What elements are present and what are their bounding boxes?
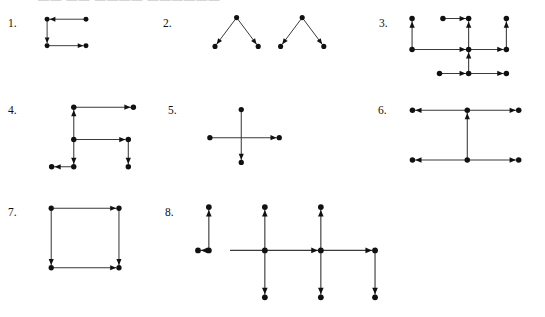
figure-canvas-1 <box>30 8 100 53</box>
edge-mid-right-arrowhead <box>460 47 466 52</box>
n-iso-top-dot <box>206 204 212 210</box>
problem-number-3: 3. <box>379 18 388 30</box>
n-c-dot <box>71 137 76 142</box>
n-top-right-dot <box>516 108 521 113</box>
edge-iso-up-arrowhead <box>206 210 212 217</box>
problem-number-5: 5. <box>168 105 177 117</box>
n-right-mid-dot <box>504 47 509 52</box>
edge-bottom-arrowhead <box>110 265 116 270</box>
nodes <box>410 108 522 163</box>
edge-top-arrowhead <box>50 17 56 22</box>
edge-bottom-left-arrowhead <box>415 157 421 162</box>
n-h2-bottom-dot <box>318 294 324 300</box>
edges <box>210 110 277 160</box>
nodes <box>45 17 89 48</box>
figure-1 <box>30 8 100 53</box>
n-top-right-dot <box>84 17 89 22</box>
edge-top-arrowhead <box>110 206 116 211</box>
n-peak-b-dot <box>300 15 305 20</box>
nodes <box>409 16 509 76</box>
n-h3-bottom-dot <box>372 294 378 300</box>
edge-bottom-left-arrowhead <box>55 164 61 169</box>
n-right-b-dot <box>321 44 326 49</box>
edge-a-right-arrowhead <box>251 38 256 44</box>
edge-down-right-arrowhead <box>126 158 131 164</box>
edges <box>409 16 509 76</box>
n-h3-dot <box>372 247 378 253</box>
problem-number-1: 1. <box>8 18 17 30</box>
figure-canvas-6 <box>398 100 528 172</box>
edge-main-2-arrowhead <box>365 248 372 254</box>
edge-top-right-arrowhead <box>124 105 130 110</box>
problem-number-6: 6. <box>378 105 387 117</box>
figure-6 <box>398 100 528 172</box>
edge-bottom-hub-right-arrowhead <box>497 71 503 76</box>
edge-down-left-arrowhead <box>71 158 76 164</box>
edge-a-left-arrowhead <box>217 38 222 44</box>
n-hub-top-dot <box>466 16 471 21</box>
n-bottom-left-dot <box>437 71 442 76</box>
n-top-left-dot <box>45 17 50 22</box>
n-bottom-left-dot <box>45 43 50 48</box>
edge-h2-down-arrowhead <box>318 288 324 295</box>
edges <box>217 18 323 45</box>
n-h1-dot <box>262 247 268 253</box>
n-iso-left-dot <box>195 247 201 253</box>
n-h2-dot <box>318 247 324 253</box>
n-tl-dot <box>409 16 414 21</box>
n-left-a-dot <box>212 44 217 49</box>
n-bottom-right-dot <box>84 43 89 48</box>
n-g-dot <box>49 164 54 169</box>
edge-h1-down-arrowhead <box>262 288 268 295</box>
edge-h2-up-arrowhead <box>318 210 324 217</box>
n-iso-bottom-dot <box>206 247 212 253</box>
problem-number-2: 2. <box>163 18 172 30</box>
n-h2-top-dot <box>318 204 324 210</box>
n-top-mid-dot <box>465 108 470 113</box>
n-right-a-dot <box>256 44 261 49</box>
figure-canvas-5 <box>195 100 290 172</box>
nodes <box>49 206 122 271</box>
n-tr-dot <box>504 16 509 21</box>
header-ghost-line: —— —— ———— —————— <box>38 0 221 5</box>
n-bottom-mid-dot <box>465 157 470 162</box>
n-tl-dot <box>49 206 54 211</box>
edge-vertical-up-arrowhead <box>465 113 470 119</box>
n-f-dot <box>126 164 131 169</box>
n-h1-top-dot <box>262 204 268 210</box>
edge-up-arrowhead <box>71 110 76 116</box>
edge-horizontal-arrowhead <box>271 135 277 140</box>
edge-left-arrowhead <box>49 259 54 265</box>
edge-top-right-arrowhead <box>510 108 516 113</box>
edge-bottom-left-right-arrowhead <box>460 71 466 76</box>
edge-h1-up-arrowhead <box>262 210 268 217</box>
nodes <box>49 104 136 169</box>
edge-right-up-arrowhead <box>504 21 509 27</box>
edge-top-left-arrowhead <box>415 108 421 113</box>
edges <box>49 206 122 271</box>
edge-b-right-arrowhead <box>317 38 322 44</box>
edge-main-1-arrowhead <box>311 248 318 254</box>
n-h1-bottom-dot <box>262 294 268 300</box>
n-top-mid-left-dot <box>440 16 445 21</box>
figure-5 <box>195 100 290 172</box>
n-bottom-hub-dot <box>466 71 471 76</box>
n-hub-dot <box>466 47 471 52</box>
figure-canvas-2 <box>192 8 342 56</box>
nodes <box>195 204 378 300</box>
edge-bottom-arrowhead <box>78 43 84 48</box>
n-bl-dot <box>49 265 54 270</box>
problem-number-7: 7. <box>8 207 17 219</box>
n-peak-a-dot <box>234 15 239 20</box>
problem-number-4: 4. <box>8 105 17 117</box>
figure-8 <box>190 198 430 310</box>
figure-canvas-3 <box>398 10 523 82</box>
n-top-dot <box>239 107 244 112</box>
edge-h3-down-arrowhead <box>372 288 378 295</box>
n-d-dot <box>126 137 131 142</box>
edge-mid-right-arrowhead <box>119 137 125 142</box>
figure-3 <box>398 10 523 82</box>
n-a-dot <box>71 104 76 109</box>
edge-hub-right-arrowhead <box>497 47 503 52</box>
figure-2 <box>192 8 342 56</box>
